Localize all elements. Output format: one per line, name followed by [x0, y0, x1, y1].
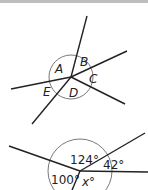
angle-42: 42°: [103, 158, 124, 172]
label-c: C: [89, 72, 98, 86]
label-a: A: [54, 62, 63, 76]
label-b: B: [80, 55, 88, 69]
label-e: E: [43, 85, 51, 99]
ray-lower-right: [71, 77, 125, 104]
angle-100: 100°: [51, 173, 80, 187]
angle-x: x°: [81, 175, 95, 189]
label-d: D: [69, 86, 78, 100]
angle-124: 124°: [70, 153, 99, 167]
diagram-given-angles: 124° 42° 100° x°: [9, 133, 148, 190]
diagram-five-angles: A B C D E: [11, 16, 127, 124]
angles-figure: A B C D E 124° 42° 100° x°: [0, 0, 148, 190]
